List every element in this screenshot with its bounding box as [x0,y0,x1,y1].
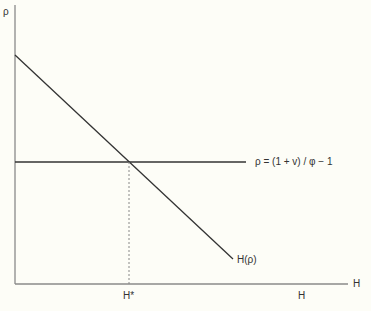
h-rho-curve [15,55,233,259]
x-axis-label: H [353,278,360,289]
tick-h: H [298,290,305,301]
y-axis-label: ρ [3,6,9,17]
tick-hstar: H* [123,290,134,301]
horizontal-line-label: ρ = (1 + v) / φ − 1 [255,156,332,167]
curve-label: H(ρ) [237,254,257,265]
